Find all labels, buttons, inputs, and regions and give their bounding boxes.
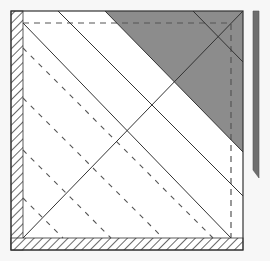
hatched-strip-bottom [11,238,243,250]
side-bar-shape [253,11,259,178]
side-bar [253,11,259,178]
geometric-diagram [0,0,270,261]
hatched-strip-left [11,11,23,250]
